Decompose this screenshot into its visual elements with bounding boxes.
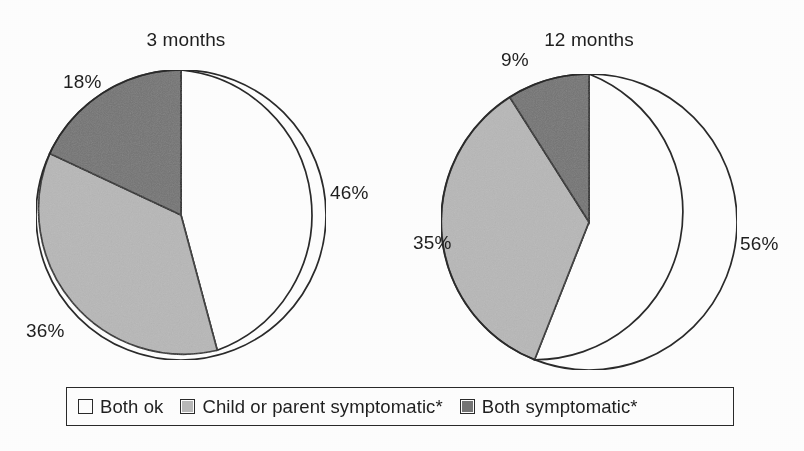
legend-swatch-both-ok	[78, 399, 93, 414]
legend-item-both-ok: Both ok	[78, 396, 163, 418]
legend-swatch-one-symptomatic	[180, 399, 195, 414]
chart-title-3-months: 3 months	[0, 29, 387, 51]
pie-chart-3-months	[36, 70, 326, 360]
value-label-one-symptomatic-3-months: 36%	[26, 320, 65, 342]
legend-label-both-ok: Both ok	[100, 396, 163, 418]
pie-chart-figure: 3 months	[0, 0, 804, 451]
value-label-one-symptomatic-12-months: 35%	[413, 232, 452, 254]
chart-panel-3-months: 3 months	[0, 0, 402, 380]
pie-svg-3-months	[36, 70, 326, 360]
legend-label-one-symptomatic: Child or parent symptomatic*	[202, 396, 442, 418]
value-label-both-symptomatic-3-months: 18%	[63, 71, 102, 93]
chart-legend: Both ok Child or parent symptomatic* Bot…	[66, 387, 734, 426]
legend-swatch-both-symptomatic	[460, 399, 475, 414]
chart-title-12-months: 12 months	[388, 29, 790, 51]
value-label-both-ok-3-months: 46%	[330, 182, 369, 204]
value-label-both-symptomatic-12-months: 9%	[501, 49, 529, 71]
legend-item-both-symptomatic: Both symptomatic*	[460, 396, 638, 418]
pie-chart-12-months	[441, 74, 737, 370]
pie-svg-12-months	[441, 74, 737, 370]
legend-item-one-symptomatic: Child or parent symptomatic*	[180, 396, 442, 418]
chart-panel-12-months: 12 months	[402, 0, 804, 380]
legend-label-both-symptomatic: Both symptomatic*	[482, 396, 638, 418]
value-label-both-ok-12-months: 56%	[740, 233, 779, 255]
